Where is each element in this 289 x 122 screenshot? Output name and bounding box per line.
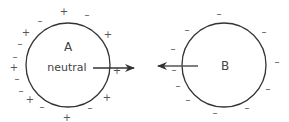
- sphere-a-minus-charge: –: [15, 74, 20, 84]
- sphere-b-minus-charge: –: [171, 44, 176, 54]
- sphere-a-plus-charge: +: [22, 28, 30, 38]
- sphere-b-minus-charge: –: [217, 9, 222, 19]
- sphere-a-plus-charge: +: [103, 93, 111, 103]
- sphere-a-plus-charge: +: [113, 66, 121, 76]
- sphere-b-minus-charge: –: [176, 81, 181, 91]
- sphere-a-plus-charge: +: [104, 30, 112, 40]
- sphere-b-minus-charge: –: [262, 27, 267, 37]
- sphere-a-minus-charge: –: [40, 102, 45, 112]
- sphere-a-minus-charge: –: [38, 16, 43, 26]
- sphere-a-minus-charge: –: [85, 10, 90, 20]
- sphere-b-minus-charge: –: [275, 57, 280, 67]
- electrostatics-diagram: A neutral B +––++––++––++––+ –––––––––––: [0, 0, 289, 122]
- sphere-b-minus-charge: –: [172, 65, 177, 75]
- sphere-b-letter: B: [221, 60, 229, 72]
- sphere-a-minus-charge: –: [18, 39, 23, 49]
- sphere-a-minus-charge: –: [13, 52, 18, 62]
- sphere-a-plus-charge: +: [60, 7, 68, 17]
- sphere-a-state: neutral: [47, 62, 86, 73]
- sphere-a-plus-charge: +: [10, 63, 18, 73]
- sphere-a-letter: A: [64, 41, 72, 53]
- sphere-b-minus-charge: –: [186, 95, 191, 105]
- sphere-a-plus-charge: +: [26, 95, 34, 105]
- sphere-b-minus-charge: –: [213, 108, 218, 118]
- sphere-b-minus-charge: –: [245, 103, 250, 113]
- sphere-a-plus-charge: +: [63, 113, 71, 122]
- sphere-b-minus-charge: –: [266, 84, 271, 94]
- sphere-a-minus-charge: –: [19, 86, 24, 96]
- sphere-a-minus-charge: –: [88, 103, 93, 113]
- sphere-b-minus-charge: –: [185, 25, 190, 35]
